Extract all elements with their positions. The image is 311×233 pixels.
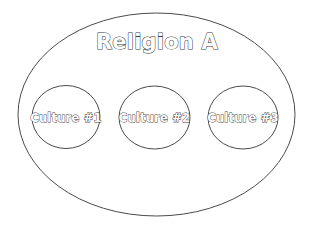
inner-set-label-culture-1: Culture #1 bbox=[30, 111, 101, 125]
inner-set-label-culture-2: Culture #2 bbox=[119, 111, 190, 125]
venn-diagram-svg: Religion A Culture #1 Culture #2 Culture… bbox=[0, 0, 311, 233]
inner-set-label-culture-3: Culture #3 bbox=[207, 111, 278, 125]
venn-diagram-canvas: Religion A Culture #1 Culture #2 Culture… bbox=[0, 0, 311, 233]
outer-set-label-religion-a: Religion A bbox=[96, 30, 219, 54]
